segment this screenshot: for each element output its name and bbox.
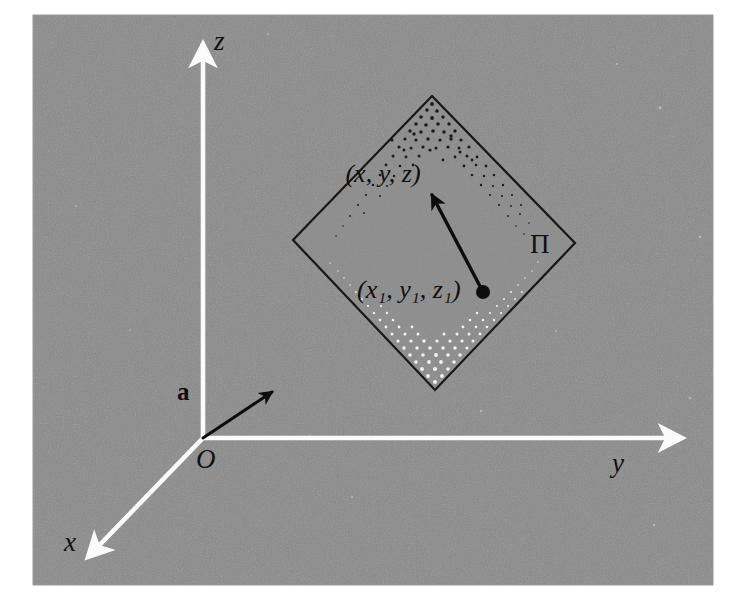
x-axis-label: x <box>63 527 76 557</box>
diagram-canvas: z y x O a Π (x, y, z) (x₁, y₁, z₁) <box>0 0 742 611</box>
known-point-label: (x₁, y₁, z₁) <box>357 275 461 304</box>
origin-label: O <box>196 444 216 474</box>
figure-container: z y x O a Π (x, y, z) (x₁, y₁, z₁) <box>0 0 742 611</box>
plane-label: Π <box>530 229 550 259</box>
y-axis-label: y <box>609 448 624 478</box>
z-axis-label: z <box>213 26 225 56</box>
normal-vector-label: a <box>177 378 190 405</box>
general-point-label: (x, y, z) <box>345 159 420 188</box>
known-point-dot <box>476 285 490 299</box>
